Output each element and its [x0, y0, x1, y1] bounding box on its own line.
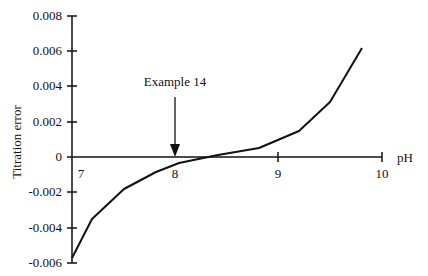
y-tick-labels: 0.008 0.006 0.004 0.002 0 -0.002 -0.004 … [28, 8, 62, 270]
arrow-down-icon [170, 144, 180, 157]
titration-error-chart: 0.008 0.006 0.004 0.002 0 -0.002 -0.004 … [0, 0, 428, 276]
annotation-label: Example 14 [144, 74, 207, 89]
y-tick-label: -0.004 [28, 220, 62, 235]
y-tick-label: 0 [56, 149, 63, 164]
y-tick-label: 0.006 [33, 43, 63, 58]
y-tick-label: -0.006 [28, 255, 62, 270]
y-tick-label: 0.004 [33, 78, 63, 93]
x-tick-labels: 7 8 9 10 [78, 166, 389, 181]
x-axis-title: pH [397, 150, 413, 165]
y-tick-label: 0.008 [33, 8, 62, 23]
titration-error-curve [72, 48, 362, 258]
x-tick-label: 7 [78, 166, 85, 181]
x-tick-label: 8 [172, 166, 179, 181]
x-tick-label: 9 [275, 166, 282, 181]
y-tick-label: 0.002 [33, 114, 62, 129]
y-axis-title: Titration error [9, 105, 24, 179]
x-tick-label: 10 [376, 166, 389, 181]
y-tick-label: -0.002 [28, 184, 62, 199]
